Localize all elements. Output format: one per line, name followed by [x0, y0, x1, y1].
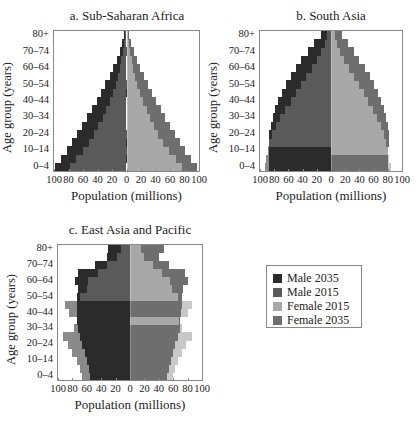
x-tick-mark	[260, 169, 261, 172]
y-tick-label: 0–4	[13, 160, 49, 171]
legend-label: Female 2015	[287, 299, 349, 313]
x-tick-mark	[54, 169, 55, 172]
bar-male-2015	[94, 130, 127, 139]
bar-female-2015	[127, 130, 159, 139]
bar-male-2015	[317, 56, 331, 65]
y-axis-title: Age group (years)	[0, 62, 15, 153]
legend-swatch-icon	[273, 302, 282, 311]
bar-male-2015	[280, 113, 331, 122]
bar-female-2015	[127, 105, 147, 114]
bar-female-2035	[331, 155, 388, 164]
y-tick-label: 60–64	[17, 274, 53, 285]
bar-female-2015	[331, 56, 344, 65]
x-tick-mark	[116, 378, 117, 381]
x-tick-mark	[156, 169, 157, 172]
y-tick-label: 80+	[13, 28, 49, 39]
y-tick-label: 70–74	[17, 258, 53, 269]
x-tick-mark	[402, 169, 403, 172]
y-tick-label: 70–74	[13, 45, 49, 56]
bar-male-2015	[83, 146, 127, 155]
x-tick-label: 100	[187, 174, 211, 185]
bar-female-2015	[130, 293, 178, 301]
bar-male-2035	[82, 340, 130, 348]
y-tick-label: 50–54	[13, 78, 49, 89]
x-tick-mark	[274, 169, 275, 172]
center-axis-line	[331, 31, 332, 171]
y-tick-label: 10–14	[13, 143, 49, 154]
legend-label: Male 2015	[287, 285, 339, 299]
y-tick-label: 40–44	[13, 94, 49, 105]
y-tick-label: 20–24	[13, 127, 49, 138]
bar-female-2015	[331, 47, 340, 56]
bar-female-2015	[127, 163, 183, 172]
x-tick-mark	[170, 169, 171, 172]
x-axis-title: Population (millions)	[47, 188, 207, 204]
bar-female-2015	[127, 122, 155, 131]
bar-female-2015	[127, 97, 144, 106]
bar-male-2015	[80, 293, 130, 301]
y-tick-label: 20–24	[219, 127, 255, 138]
bar-female-2035	[130, 348, 173, 356]
y-axis-title: Age group (years)	[206, 62, 221, 153]
bar-male-2015	[107, 261, 130, 269]
y-tick-label: 80+	[17, 242, 53, 253]
bar-male-2015	[291, 97, 331, 106]
bar-male-2015	[306, 72, 331, 81]
bar-female-2015	[127, 80, 138, 89]
x-tick-label: 100	[190, 383, 214, 394]
x-tick-mark	[331, 169, 332, 172]
y-tick-label: 40–44	[17, 306, 53, 317]
bar-female-2035	[130, 364, 169, 372]
y-tick-label: 0–4	[17, 369, 53, 380]
bar-male-2015	[89, 138, 127, 147]
bar-female-2015	[130, 253, 144, 261]
x-tick-mark	[345, 169, 346, 172]
bar-female-2015	[127, 138, 164, 147]
bar-female-2015	[331, 130, 384, 139]
bar-female-2015	[331, 113, 377, 122]
bar-female-2015	[130, 316, 179, 324]
panel-title: b. South Asia	[251, 8, 411, 24]
x-tick-mark	[98, 169, 99, 172]
bar-female-2035	[130, 340, 175, 348]
center-axis-line	[127, 31, 128, 171]
bar-male-2035	[85, 348, 130, 356]
bar-female-2015	[331, 122, 381, 131]
x-tick-mark	[87, 378, 88, 381]
legend-swatch-icon	[273, 274, 282, 283]
bar-male-2015	[103, 113, 127, 122]
legend-item-male-2035: Male 2035	[273, 271, 339, 286]
bar-female-2015	[331, 80, 359, 89]
x-tick-label: 100	[390, 174, 414, 185]
x-tick-mark	[303, 169, 304, 172]
bar-female-2015	[331, 105, 373, 114]
x-tick-mark	[188, 378, 189, 381]
y-tick-label: 60–64	[219, 61, 255, 72]
x-tick-mark	[127, 169, 128, 172]
x-tick-mark	[141, 169, 142, 172]
bar-female-2015	[127, 155, 176, 164]
x-tick-mark	[58, 378, 59, 381]
y-tick-label: 20–24	[17, 337, 53, 348]
legend-item-male-2015: Male 2015	[273, 285, 339, 300]
x-tick-mark	[159, 378, 160, 381]
y-tick-label: 80+	[219, 28, 255, 39]
panel-title: c. East Asia and Pacific	[50, 222, 210, 238]
y-tick-label: 50–54	[17, 290, 53, 301]
x-tick-mark	[185, 169, 186, 172]
bar-male-2015	[106, 105, 126, 114]
bar-female-2015	[130, 261, 153, 269]
bar-male-2015	[98, 122, 126, 131]
bar-male-2015	[87, 285, 130, 293]
x-axis-title: Population (millions)	[50, 397, 210, 413]
bar-female-2035	[130, 324, 180, 332]
y-axis-title: Age group (years)	[4, 274, 19, 365]
legend-swatch-icon	[273, 316, 282, 325]
bar-male-2035	[77, 316, 130, 324]
legend-item-female-2015: Female 2015	[273, 299, 349, 314]
legend: Male 2035 Male 2015 Female 2015 Female 2…	[266, 265, 362, 328]
bar-male-2015	[312, 64, 331, 73]
bar-male-2015	[117, 253, 130, 261]
legend-label: Female 2035	[287, 313, 349, 327]
bar-female-2015	[130, 285, 172, 293]
